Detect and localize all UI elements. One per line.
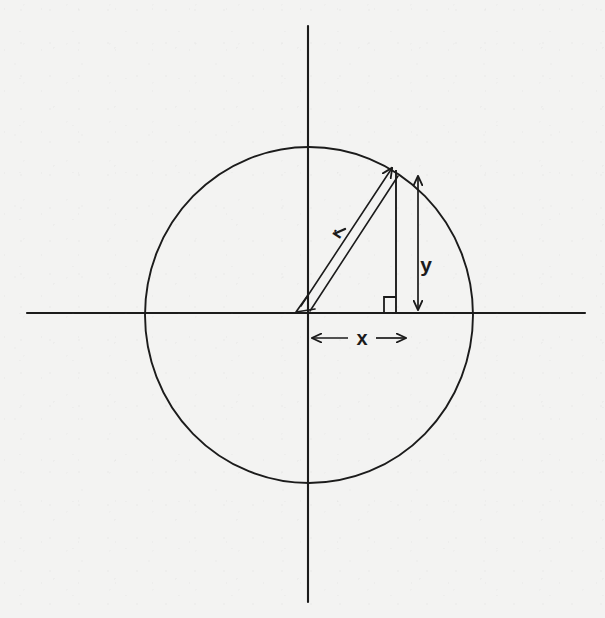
unit-circle-diagram: r y x [0, 0, 605, 618]
radius-vector [296, 168, 398, 312]
radius-origin-arrow-head [296, 295, 315, 312]
right-angle-marker [384, 297, 396, 312]
label-vertical-leg: y [420, 253, 432, 276]
radius-line-lower [310, 176, 398, 311]
axes-group [27, 26, 585, 602]
figure-canvas: r y x [0, 0, 605, 618]
label-radius: r [327, 226, 347, 242]
radius-line-upper [301, 168, 392, 306]
label-horizontal-leg: x [356, 327, 367, 349]
